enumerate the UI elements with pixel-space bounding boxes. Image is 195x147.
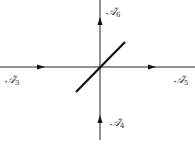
label-a6-base: 𝒜̂ bbox=[106, 5, 116, 18]
label-a6-sub: 6 bbox=[116, 11, 120, 19]
arrow-left-segment-icon bbox=[37, 65, 45, 70]
label-a5: 𝒜̂5 bbox=[174, 74, 188, 87]
label-a5-base: 𝒜̂ bbox=[174, 73, 184, 86]
label-a4: 𝒜̂4 bbox=[110, 117, 124, 130]
arrow-right-segment-icon bbox=[148, 65, 156, 70]
diagram-canvas bbox=[0, 0, 195, 147]
label-a4-base: 𝒜̂ bbox=[110, 116, 120, 129]
label-a5-sub: 5 bbox=[184, 79, 188, 87]
arrow-top-segment-icon bbox=[98, 17, 103, 25]
label-a3: 𝒜̂3 bbox=[5, 74, 19, 87]
label-a4-sub: 4 bbox=[120, 122, 124, 130]
label-a3-sub: 3 bbox=[15, 79, 19, 87]
label-a3-base: 𝒜̂ bbox=[5, 73, 15, 86]
label-a6: 𝒜̂6 bbox=[106, 6, 120, 19]
arrow-bottom-segment-icon bbox=[98, 115, 103, 123]
